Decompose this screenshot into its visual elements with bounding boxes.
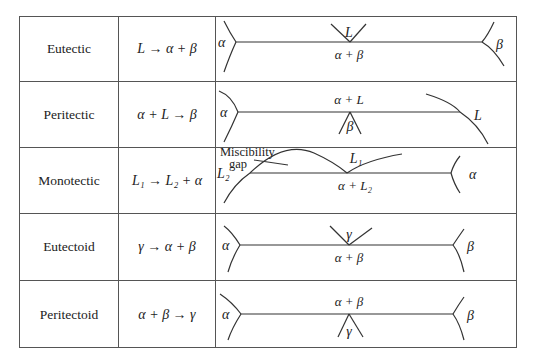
reaction-equation: L₁ → L₂ + α [119, 148, 216, 213]
eutectic-diagram: α β L α + β [216, 17, 517, 81]
left-phase-label: α [220, 105, 228, 120]
middle-label: α + L [334, 92, 363, 107]
reaction-name: Peritectoid [20, 281, 119, 348]
alpha-boundary-lower [228, 314, 241, 340]
middle-label: α + β [335, 294, 364, 309]
table-row-monotectic: Monotectic L₁ → L₂ + α Miscibility gap L… [20, 148, 516, 214]
table-row-peritectoid: Peritectoid α + β → γ α β γ α + β [20, 281, 516, 348]
top-phase-label: γ [346, 227, 352, 242]
reaction-equation: α + L → β [119, 82, 216, 147]
beta-boundary-lower [453, 314, 464, 340]
miscibility-gap-label-line2: gap [229, 157, 247, 171]
left-phase-label: α [218, 35, 226, 50]
invariant-reactions-table: Eutectic L → α + β α β L α + β Peritecti… [19, 16, 517, 348]
right-phase-label: α [469, 167, 477, 182]
top-phase-label: L₁ [349, 151, 363, 166]
table-row-eutectoid: Eutectoid γ → α + β α β γ α + β [20, 214, 516, 281]
middle-label: α + β [335, 47, 364, 62]
right-phase-label: β [466, 239, 474, 254]
peritectoid-diagram: α β γ α + β [216, 281, 517, 348]
middle-label: α + β [335, 250, 364, 265]
reaction-name: Eutectic [20, 17, 119, 81]
beta-boundary-upper [453, 229, 464, 245]
bottom-phase-label: β [346, 119, 354, 134]
alpha-boundary-upper [451, 156, 460, 173]
eutectoid-diagram: α β γ α + β [216, 214, 517, 280]
left-phase-label: L₂ [216, 166, 230, 181]
alpha-boundary-lower [451, 173, 460, 193]
right-phase-label: L [473, 108, 482, 123]
right-phase-label: β [495, 37, 503, 52]
left-phase-label: α [222, 238, 230, 253]
beta-boundary-upper [482, 22, 494, 42]
alpha-boundary-upper [224, 21, 236, 42]
alpha-boundary-lower [224, 42, 236, 72]
middle-label: α + L₂ [338, 178, 372, 193]
gamma-boundary-right [349, 228, 372, 245]
reaction-equation: α + β → γ [119, 281, 216, 348]
right-phase-label: β [466, 308, 474, 323]
reaction-name: Eutectoid [20, 214, 119, 280]
table-row-peritectic: Peritectic α + L → β α L β α + L [20, 82, 516, 148]
left-phase-label: α [222, 307, 230, 322]
top-phase-label: L [344, 25, 353, 40]
alpha-boundary-lower [228, 245, 240, 272]
peritectic-diagram: α L β α + L [216, 82, 517, 147]
beta-boundary-lower [453, 245, 464, 272]
reaction-equation: L → α + β [119, 17, 216, 81]
reaction-equation: γ → α + β [119, 214, 216, 280]
table-row-eutectic: Eutectic L → α + β α β L α + β [20, 17, 516, 82]
reaction-name: Monotectic [20, 148, 119, 213]
bottom-phase-label: γ [346, 324, 352, 339]
reaction-name: Peritectic [20, 82, 119, 147]
liquidus-upper [426, 94, 460, 112]
monotectic-diagram: Miscibility gap L₂ α L₁ α + L₂ [216, 148, 517, 213]
beta-boundary-upper [453, 297, 464, 314]
